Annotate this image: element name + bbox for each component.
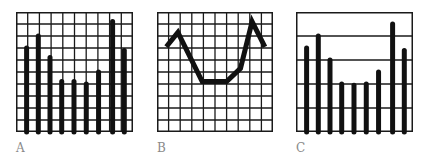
bar-chart-bands — [296, 12, 413, 132]
chart-panel-b — [157, 12, 274, 132]
panel-label-b: B — [157, 141, 166, 155]
panel-label-c: C — [296, 141, 305, 155]
bar-chart-grid — [16, 12, 133, 132]
panel-label-a: A — [16, 141, 25, 155]
line-chart-grid — [157, 12, 273, 132]
chart-panel-a — [16, 12, 133, 132]
chart-panel-c — [296, 12, 413, 132]
